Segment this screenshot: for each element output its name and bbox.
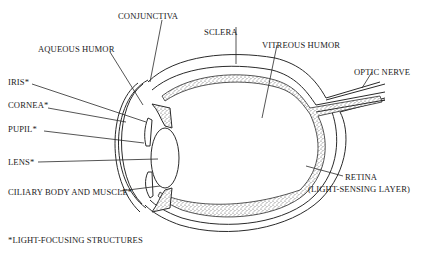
label-conjunctiva: CONJUNCTIVA (118, 11, 178, 21)
label-pupil: PUPIL* (8, 124, 37, 134)
iris-bottom (146, 172, 153, 198)
label-retina: RETINA (345, 172, 377, 182)
label-iris: IRIS* (8, 77, 29, 87)
label-vitreous-humor: VITREOUS HUMOR (262, 40, 340, 50)
label-cornea: CORNEA* (8, 100, 48, 110)
retina-band (158, 75, 382, 217)
ciliary-top (152, 104, 172, 128)
label-aqueous-humor: AQUEOUS HUMOR (38, 44, 115, 54)
label-lens: LENS* (8, 157, 34, 167)
eyeball (115, 55, 385, 232)
label-retina-subtitle: (LIGHT-SENSING LAYER) (308, 184, 410, 194)
eye-diagram (0, 0, 425, 258)
label-optic-nerve: OPTIC NERVE (354, 67, 410, 77)
footnote: *LIGHT-FOCUSING STRUCTURES (8, 235, 143, 245)
label-sclera: SCLERA (204, 27, 238, 37)
label-ciliary-body: CILIARY BODY AND MUSCLE* (8, 187, 132, 197)
lens (151, 128, 179, 188)
ciliary-bottom (152, 188, 172, 212)
